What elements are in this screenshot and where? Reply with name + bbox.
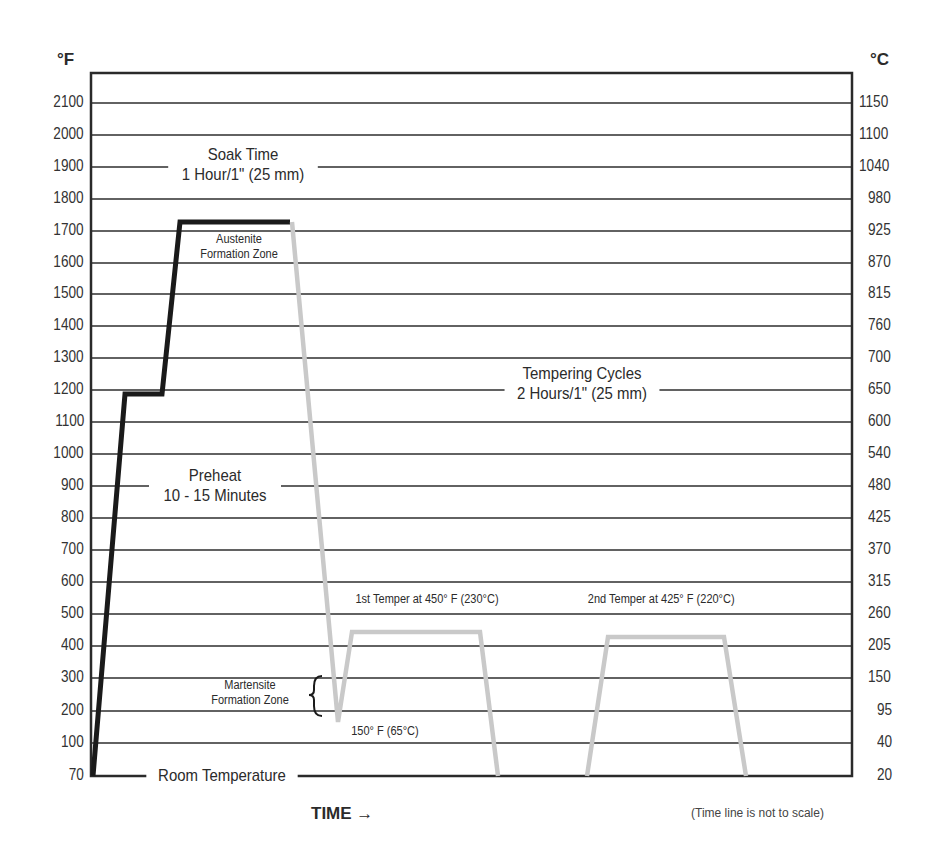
time-axis-label: TIME → xyxy=(311,804,373,824)
tick-c: 650 xyxy=(868,380,891,398)
martensite-brace xyxy=(309,676,322,716)
tempering-cycles-label: Tempering Cycles 2 Hours/1" (25 mm) xyxy=(505,364,660,405)
tick-f: 200 xyxy=(61,701,84,719)
tempering-curve-1 xyxy=(292,222,498,776)
preheat-label: Preheat 10 - 15 Minutes xyxy=(149,466,281,507)
tick-c: 205 xyxy=(868,636,891,654)
tick-f: 1700 xyxy=(54,221,84,239)
room-temperature-label: Room Temperature xyxy=(146,766,297,786)
tick-f: 1100 xyxy=(55,412,84,430)
tick-c: 1100 xyxy=(859,125,888,143)
tick-c: 870 xyxy=(868,253,891,271)
tick-c: 1040 xyxy=(859,157,889,175)
tick-c: 425 xyxy=(868,508,891,526)
tick-c: 315 xyxy=(868,572,891,590)
tick-c: 150 xyxy=(868,668,891,686)
quench-low-label: 150° F (65°C) xyxy=(349,724,421,739)
tick-f: 70 xyxy=(69,766,84,784)
tick-f: 1200 xyxy=(54,380,84,398)
tick-c: 260 xyxy=(868,604,891,622)
tick-c: 600 xyxy=(868,412,891,430)
tick-c: 20 xyxy=(877,766,892,784)
tick-c: 95 xyxy=(877,701,892,719)
austenite-zone-label: Austenite Formation Zone xyxy=(194,232,284,262)
tick-f: 1500 xyxy=(54,284,84,302)
martensite-zone-label: Martensite Formation Zone xyxy=(204,678,296,708)
tick-f: 1600 xyxy=(54,253,84,271)
tick-c: 980 xyxy=(868,189,891,207)
tick-c: 815 xyxy=(868,284,891,302)
tick-c: 925 xyxy=(868,221,891,239)
tick-f: 100 xyxy=(61,733,84,751)
soak-time-label: Soak Time 1 Hour/1" (25 mm) xyxy=(168,145,318,186)
gridlines xyxy=(90,103,852,743)
time-scale-note: (Time line is not to scale) xyxy=(691,806,824,820)
second-temper-label: 2nd Temper at 425° F (220°C) xyxy=(588,592,732,607)
tick-f: 1800 xyxy=(54,189,84,207)
tick-f: 300 xyxy=(61,668,84,686)
tick-c: 700 xyxy=(868,348,891,366)
tick-f: 2100 xyxy=(54,93,84,111)
tick-f: 400 xyxy=(61,636,84,654)
tick-f: 1300 xyxy=(54,348,84,366)
tick-c: 1150 xyxy=(859,93,888,111)
tick-f: 1900 xyxy=(54,157,84,175)
tick-c: 540 xyxy=(868,444,891,462)
tick-f: 600 xyxy=(61,572,84,590)
tempering-curve-2 xyxy=(587,637,746,776)
tick-f: 700 xyxy=(61,540,84,558)
tick-f: 900 xyxy=(61,476,84,494)
tick-c: 370 xyxy=(868,540,891,558)
tick-f: 1400 xyxy=(54,316,84,334)
tick-c: 760 xyxy=(868,316,891,334)
tick-f: 500 xyxy=(61,604,84,622)
tick-f: 2000 xyxy=(54,125,84,143)
tick-c: 480 xyxy=(868,476,891,494)
tick-f: 1000 xyxy=(54,444,84,462)
chart-plot-area xyxy=(0,0,940,866)
tick-f: 800 xyxy=(61,508,84,526)
tick-c: 40 xyxy=(877,733,892,751)
first-temper-label: 1st Temper at 450° F (230°C) xyxy=(355,592,494,607)
